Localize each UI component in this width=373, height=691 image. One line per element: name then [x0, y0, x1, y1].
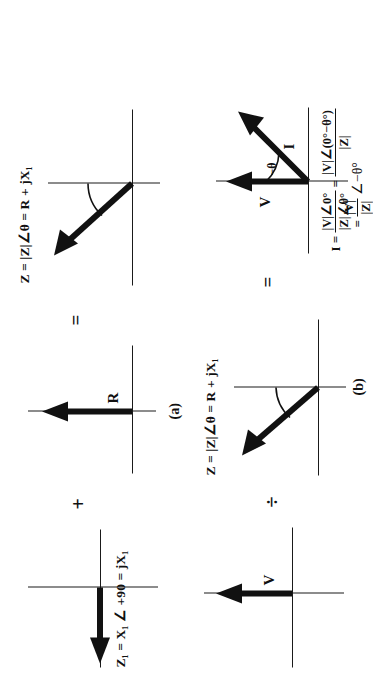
impedance-phasor-arrow [14, 91, 164, 291]
panel-a2-vector-label: R [106, 392, 121, 403]
panel-b3-current: V I −θ I = |V|∠0° |Z|∠θ° = |V|∠(0°−θ°) |… [186, 5, 358, 255]
fraction-3-numerator: |V| [342, 198, 358, 217]
panel-b2-equation: Z = |Z|∠θ = R + jX₁ [204, 358, 218, 475]
panel-b3-voltage-label: V [258, 196, 273, 207]
derivation-angle-tail: ∠−θ° [349, 162, 366, 195]
voltage-phasor-arrow [200, 523, 350, 673]
panel-a1-equation: Z₁ = X₁ ∠ +90 = jX₁ [114, 550, 128, 667]
caption-a: (a) [168, 403, 182, 419]
panel-a1-reactance: Z₁ = X₁ ∠ +90 = jX₁ [22, 523, 162, 673]
panel-b1-voltage: V [200, 523, 350, 673]
derivation-lhs: I = [328, 235, 344, 251]
panel-b2-impedance: Z = |Z|∠θ = R + jX₁ [200, 299, 350, 479]
operator-equals-b: = [258, 276, 277, 287]
panel-a3-impedance: Z = |Z|∠θ = R + jX₁ [14, 91, 164, 291]
operator-equals-a: = [66, 314, 85, 325]
operator-divide: ÷ [262, 496, 282, 507]
fraction-3-denominator: |Z| [358, 198, 373, 217]
fraction-1-numerator: |V|∠0° [320, 190, 336, 232]
panel-b3-current-label: I [282, 143, 297, 149]
impedance-phasor-arrow [200, 299, 350, 479]
reactance-phasor-arrow [22, 523, 162, 673]
panel-a3-equation: Z = |Z|∠θ = R + jX₁ [18, 166, 32, 283]
derivation-equals-2: = [350, 220, 366, 227]
fraction-2-numerator: |V|∠(0°−θ°) [320, 108, 336, 177]
panel-a2-resistance: R [22, 339, 162, 479]
fraction-3: |V| |Z| [342, 198, 373, 217]
caption-b: (b) [352, 378, 366, 395]
panel-b3-angle-label: −θ [266, 162, 278, 175]
panel-b1-vector-label: V [262, 574, 277, 585]
operator-plus: + [68, 498, 88, 509]
derivation-line-2: = |V| |Z| ∠−θ° [342, 162, 373, 227]
resistance-phasor-arrow [22, 339, 162, 479]
